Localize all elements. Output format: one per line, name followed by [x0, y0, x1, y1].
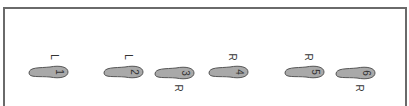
- footprint-6: 6: [333, 65, 377, 81]
- step-number: 6: [359, 66, 373, 80]
- step-number: 3: [178, 66, 192, 80]
- footprint-5: 5: [282, 64, 326, 80]
- footprint-4: 4: [206, 64, 250, 80]
- diagram-frame: [3, 7, 407, 106]
- side-label: L: [122, 51, 134, 63]
- step-number: 5: [308, 65, 322, 79]
- side-label: R: [172, 82, 184, 94]
- step-number: 1: [52, 65, 66, 79]
- footprint-3: 3: [152, 65, 196, 81]
- side-label: R: [226, 51, 238, 63]
- footprint-2: 2: [101, 64, 145, 80]
- footprint-1: 1: [26, 64, 70, 80]
- side-label: R: [353, 82, 365, 94]
- step-number: 2: [127, 65, 141, 79]
- side-label: R: [302, 51, 314, 63]
- side-label: L: [48, 51, 60, 63]
- step-number: 4: [232, 65, 246, 79]
